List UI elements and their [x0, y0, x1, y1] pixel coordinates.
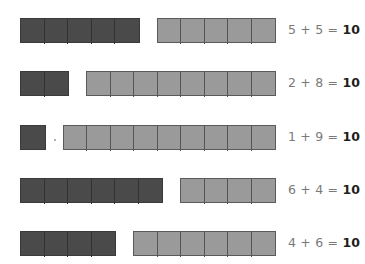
dark-block-bar — [20, 125, 46, 150]
block-cell — [228, 232, 252, 257]
block-cell — [64, 126, 88, 151]
block-cell — [111, 126, 135, 151]
addend-b: 9 — [315, 129, 323, 144]
block-cell — [252, 179, 276, 204]
block-cell — [205, 72, 229, 97]
light-block-bar — [180, 178, 276, 203]
block-cell — [21, 179, 45, 204]
block-cell — [252, 126, 276, 151]
sum: 10 — [342, 75, 360, 90]
block-cell — [158, 72, 182, 97]
addend-a: 5 — [288, 22, 296, 37]
bond-row-3: 1 + 9 = 10 — [0, 125, 365, 150]
plus-sign: + — [300, 182, 311, 197]
block-cell — [158, 126, 182, 151]
block-cell — [21, 72, 45, 97]
addend-a: 2 — [288, 75, 296, 90]
block-cell — [45, 19, 69, 44]
block-cell — [115, 179, 139, 204]
block-cell — [205, 126, 229, 151]
block-cell — [92, 179, 116, 204]
equals-sign: = — [328, 75, 339, 90]
addend-a: 1 — [288, 129, 296, 144]
block-cell — [21, 126, 45, 151]
block-cell — [181, 179, 205, 204]
block-cell — [92, 19, 116, 44]
equation: 1 + 9 = 10 — [288, 129, 360, 144]
block-cell — [45, 179, 69, 204]
bond-row-1: 5 + 5 = 10 — [0, 18, 365, 43]
bond-row-4: 6 + 4 = 10 — [0, 178, 365, 203]
block-cell — [68, 179, 92, 204]
block-cell — [158, 19, 182, 44]
plus-sign: + — [300, 235, 311, 250]
equals-sign: = — [328, 22, 339, 37]
block-cell — [134, 126, 158, 151]
equals-sign: = — [328, 235, 339, 250]
block-cell — [252, 19, 276, 44]
sum: 10 — [342, 235, 360, 250]
bond-row-5: 4 + 6 = 10 — [0, 231, 365, 256]
light-block-bar — [63, 125, 277, 150]
block-cell — [134, 232, 158, 257]
equals-sign: = — [328, 129, 339, 144]
block-cell — [181, 232, 205, 257]
addend-a: 4 — [288, 235, 296, 250]
block-cell — [139, 179, 163, 204]
dark-block-bar — [20, 18, 140, 43]
addend-b: 5 — [315, 22, 323, 37]
block-cell — [228, 179, 252, 204]
equation: 5 + 5 = 10 — [288, 22, 360, 37]
light-block-bar — [133, 231, 276, 256]
block-cell — [158, 232, 182, 257]
block-cell — [92, 232, 116, 257]
dark-block-bar — [20, 178, 163, 203]
block-cell — [45, 232, 69, 257]
block-cell — [45, 72, 69, 97]
addend-b: 8 — [315, 75, 323, 90]
block-cell — [87, 126, 111, 151]
block-cell — [205, 179, 229, 204]
block-cell — [115, 19, 139, 44]
block-cell — [68, 19, 92, 44]
plus-sign: + — [300, 75, 311, 90]
equation: 6 + 4 = 10 — [288, 182, 360, 197]
block-cell — [87, 72, 111, 97]
block-cell — [68, 232, 92, 257]
block-cell — [181, 72, 205, 97]
block-cell — [252, 72, 276, 97]
equation: 4 + 6 = 10 — [288, 235, 360, 250]
addend-a: 6 — [288, 182, 296, 197]
block-cell — [134, 72, 158, 97]
equation: 2 + 8 = 10 — [288, 75, 360, 90]
addend-b: 6 — [315, 235, 323, 250]
dark-block-bar — [20, 71, 69, 96]
block-cell — [228, 72, 252, 97]
block-cell — [228, 19, 252, 44]
equals-sign: = — [328, 182, 339, 197]
light-block-bar — [86, 71, 276, 96]
block-cell — [228, 126, 252, 151]
separator-dot — [54, 139, 56, 141]
block-cell — [205, 19, 229, 44]
block-cell — [21, 232, 45, 257]
sum: 10 — [342, 182, 360, 197]
block-cell — [181, 126, 205, 151]
block-cell — [181, 19, 205, 44]
block-cell — [205, 232, 229, 257]
block-cell — [252, 232, 276, 257]
addend-b: 4 — [315, 182, 323, 197]
sum: 10 — [342, 129, 360, 144]
plus-sign: + — [300, 22, 311, 37]
sum: 10 — [342, 22, 360, 37]
plus-sign: + — [300, 129, 311, 144]
dark-block-bar — [20, 231, 116, 256]
block-cell — [21, 19, 45, 44]
bond-row-2: 2 + 8 = 10 — [0, 71, 365, 96]
light-block-bar — [157, 18, 277, 43]
block-cell — [111, 72, 135, 97]
